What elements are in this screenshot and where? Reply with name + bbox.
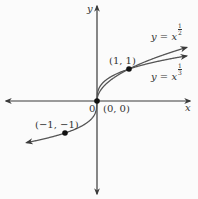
legend-sqrt-exponent: 1 2	[178, 23, 182, 36]
legend-cbrt-exponent: 1 3	[178, 63, 182, 76]
legend-sqrt-text: y = x	[151, 32, 177, 42]
plot-area	[0, 0, 198, 199]
y-axis-label: y	[87, 4, 93, 14]
x-axis-label: x	[185, 103, 191, 113]
point-label-origin: (0, 0)	[103, 104, 130, 114]
data-point-marker	[126, 66, 132, 72]
graph-root-functions: y x 0 (0, 0) (1, 1) (−1, −1) y = x 1 2 y…	[0, 0, 198, 199]
data-point-marker	[62, 130, 68, 136]
point-label-neg-one: (−1, −1)	[35, 120, 79, 130]
data-point-marker	[94, 98, 100, 104]
point-label-one-one: (1, 1)	[109, 56, 136, 66]
legend-cbrt-text: y = x	[151, 72, 177, 82]
origin-label: 0	[89, 104, 95, 114]
